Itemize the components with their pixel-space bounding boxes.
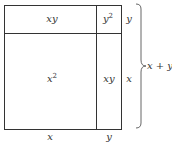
region-label-bottom-right: xy (103, 74, 114, 84)
region-label-top-right: y2 (103, 14, 113, 24)
brace-label: x + y (147, 61, 172, 71)
region-label-bottom-left: x2 (47, 74, 57, 84)
side-label-right-bottom: x (126, 74, 132, 84)
region-label-top-left: xy (46, 14, 57, 24)
curly-brace (136, 4, 146, 128)
side-label-right-top: y (126, 14, 132, 24)
outer-square (5, 6, 122, 130)
diagram-canvas (0, 0, 172, 144)
side-label-bottom-left: x (47, 132, 53, 142)
side-label-bottom-right: y (106, 132, 112, 142)
